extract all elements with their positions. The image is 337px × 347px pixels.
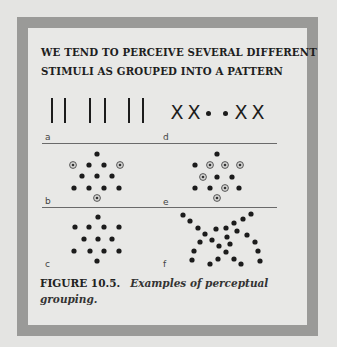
dot	[95, 214, 100, 219]
dot	[116, 185, 121, 190]
circled-dot	[94, 195, 101, 202]
dot	[207, 261, 212, 266]
dot	[248, 211, 253, 216]
dot	[252, 239, 257, 244]
dot	[72, 224, 77, 229]
dot	[231, 220, 236, 225]
dot	[86, 224, 91, 229]
dot	[202, 231, 207, 236]
circled-dot	[222, 185, 229, 192]
dot	[189, 257, 194, 262]
circled-dot	[117, 162, 124, 169]
dot	[255, 248, 260, 253]
dot	[195, 225, 200, 230]
dot	[209, 237, 214, 242]
dot	[215, 256, 220, 261]
dot	[191, 248, 196, 253]
dot	[229, 174, 234, 179]
dot	[244, 232, 249, 237]
dot	[257, 258, 262, 263]
dot	[101, 224, 106, 229]
circled-dot	[222, 162, 229, 169]
dot	[101, 162, 106, 167]
circled-dot	[214, 195, 221, 202]
dot	[240, 216, 245, 221]
dot	[116, 224, 121, 229]
dot	[223, 225, 228, 230]
caption-text-line-2: grouping.	[40, 293, 97, 305]
dot	[213, 226, 218, 231]
dot	[71, 185, 76, 190]
dot	[236, 185, 241, 190]
circled-dot	[200, 174, 207, 181]
circled-dot	[207, 162, 214, 169]
dot	[207, 185, 212, 190]
dot	[109, 173, 114, 178]
dot	[238, 261, 243, 266]
dot	[234, 228, 239, 233]
dot	[192, 162, 197, 167]
dot	[116, 248, 121, 253]
dot	[94, 173, 99, 178]
dot	[197, 239, 202, 244]
circled-dot	[70, 162, 77, 169]
dot	[81, 236, 86, 241]
dot	[86, 162, 91, 167]
figure-number: FIGURE 10.5.	[40, 277, 120, 289]
dot	[109, 236, 114, 241]
dot	[71, 248, 76, 253]
dot	[223, 249, 228, 254]
caption-text-line-1: Examples of perceptual	[130, 277, 268, 289]
dot	[180, 212, 185, 217]
dot	[214, 151, 219, 156]
dot	[86, 185, 91, 190]
dot	[192, 185, 197, 190]
dot	[216, 243, 221, 248]
dot	[224, 234, 229, 239]
circled-dot	[237, 162, 244, 169]
dot	[187, 218, 192, 223]
dot	[87, 248, 92, 253]
dot	[94, 258, 99, 263]
dot	[101, 185, 106, 190]
dot	[214, 174, 219, 179]
dot	[79, 173, 84, 178]
dot	[94, 151, 99, 156]
dot	[101, 248, 106, 253]
figure-caption: FIGURE 10.5. Examples of perceptual grou…	[40, 275, 268, 307]
dot	[95, 236, 100, 241]
dot	[227, 241, 232, 246]
dot	[231, 256, 236, 261]
